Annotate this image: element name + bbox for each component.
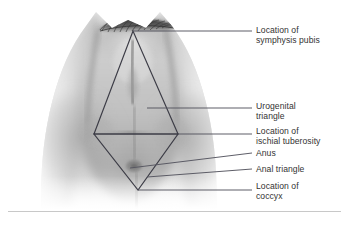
label-anus: Anus — [256, 148, 276, 158]
label-symphysis-pubis: Location of symphysis pubis — [256, 25, 320, 45]
figure-divider — [8, 211, 341, 212]
perineum-illustration — [0, 0, 240, 210]
bottom-fade — [0, 176, 240, 210]
label-coccyx: Location of coccyx — [256, 181, 299, 201]
label-ischial-tuberosity: Location of ischial tuberosity — [256, 126, 320, 146]
anus-center — [131, 164, 138, 169]
figure-root: Location of symphysis pubis Urogenital t… — [0, 0, 349, 226]
body-mass — [0, 0, 240, 210]
label-urogenital-triangle: Urogenital triangle — [256, 101, 296, 121]
label-anal-triangle: Anal triangle — [256, 164, 304, 174]
